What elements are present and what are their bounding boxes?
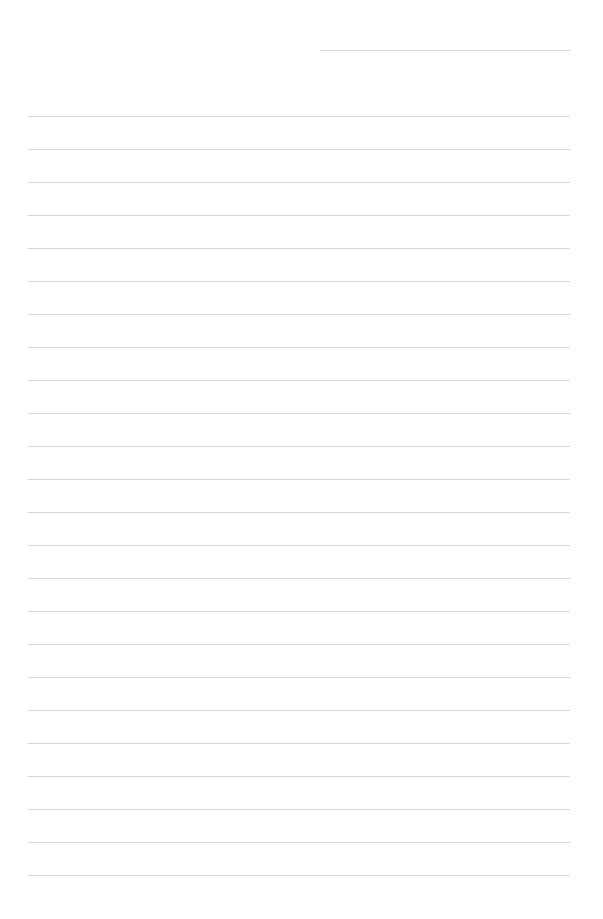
ruled-line bbox=[28, 116, 570, 117]
ruled-line bbox=[28, 512, 570, 513]
ruled-line bbox=[28, 149, 570, 150]
ruled-line bbox=[28, 677, 570, 678]
ruled-line bbox=[28, 413, 570, 414]
ruled-line bbox=[28, 215, 570, 216]
ruled-line bbox=[28, 380, 570, 381]
ruled-line bbox=[28, 578, 570, 579]
ruled-line bbox=[28, 743, 570, 744]
ruled-line bbox=[28, 710, 570, 711]
ruled-line bbox=[28, 545, 570, 546]
ruled-line bbox=[28, 248, 570, 249]
ruled-line bbox=[28, 809, 570, 810]
ruled-line bbox=[28, 479, 570, 480]
ruled-line bbox=[28, 875, 570, 876]
ruled-line bbox=[28, 347, 570, 348]
ruled-line bbox=[28, 842, 570, 843]
ruled-line bbox=[28, 644, 570, 645]
ruled-line bbox=[28, 446, 570, 447]
ruled-line bbox=[28, 182, 570, 183]
ruled-line bbox=[28, 314, 570, 315]
header-date-line bbox=[320, 50, 570, 51]
ruled-line bbox=[28, 776, 570, 777]
ruled-line bbox=[28, 281, 570, 282]
lined-paper-page bbox=[0, 0, 603, 919]
ruled-line bbox=[28, 611, 570, 612]
